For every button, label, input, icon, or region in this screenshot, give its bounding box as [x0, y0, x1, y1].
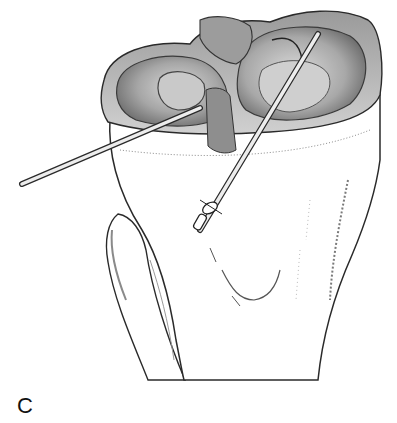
medical-illustration: C: [0, 0, 397, 423]
tibia-drawing: [0, 0, 397, 423]
panel-label: C: [17, 395, 33, 417]
